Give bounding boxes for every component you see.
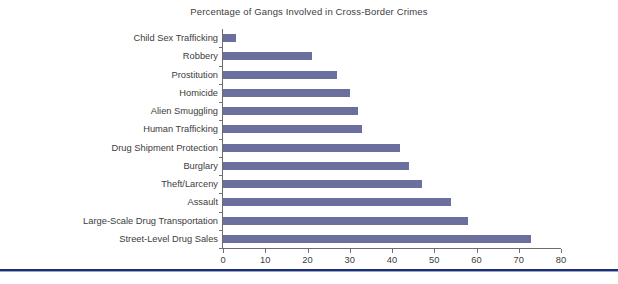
x-axis-tick: [477, 249, 478, 253]
bar: [223, 107, 358, 115]
x-axis-tick: [265, 249, 266, 253]
category-label: Burglary: [183, 161, 218, 171]
category-label: Drug Shipment Protection: [112, 143, 218, 153]
bar: [223, 162, 409, 170]
category-label: Human Trafficking: [143, 124, 218, 134]
bar: [223, 89, 350, 97]
y-axis-tick: [219, 157, 223, 158]
x-axis-tick: [308, 249, 309, 253]
bar: [223, 180, 422, 188]
x-axis-tick-label: 70: [504, 255, 534, 265]
y-axis-tick: [219, 212, 223, 213]
x-axis-tick: [519, 249, 520, 253]
y-axis-tick: [219, 102, 223, 103]
x-axis-tick-label: 80: [546, 255, 576, 265]
x-axis-tick-label: 20: [293, 255, 323, 265]
y-axis-tick: [219, 230, 223, 231]
category-label: Large-Scale Drug Transportation: [83, 216, 218, 226]
x-axis-tick-label: 40: [377, 255, 407, 265]
y-axis-tick: [219, 47, 223, 48]
x-axis-tick-label: 0: [208, 255, 238, 265]
y-axis-tick: [219, 139, 223, 140]
category-label: Theft/Larceny: [161, 179, 218, 189]
bar: [223, 125, 362, 133]
category-label: Homicide: [179, 88, 218, 98]
y-axis-tick: [219, 193, 223, 194]
bar: [223, 235, 531, 243]
category-label: Assault: [188, 197, 219, 207]
x-axis-tick-label: 10: [250, 255, 280, 265]
plot-area: [223, 29, 561, 248]
category-label: Street-Level Drug Sales: [119, 234, 218, 244]
x-axis-tick-label: 60: [462, 255, 492, 265]
x-axis-tick: [561, 249, 562, 253]
x-axis-tick-label: 50: [419, 255, 449, 265]
bar: [223, 144, 400, 152]
x-axis-tick: [434, 249, 435, 253]
bar: [223, 217, 468, 225]
bar: [223, 71, 337, 79]
y-axis-tick: [219, 175, 223, 176]
x-axis-tick-label: 30: [335, 255, 365, 265]
bar: [223, 34, 236, 42]
bar: [223, 198, 451, 206]
x-axis-tick: [223, 249, 224, 253]
bar-chart-figure: Percentage of Gangs Involved in Cross-Bo…: [0, 0, 618, 284]
chart-title: Percentage of Gangs Involved in Cross-Bo…: [0, 6, 618, 17]
category-label: Alien Smuggling: [151, 106, 218, 116]
category-label: Child Sex Trafficking: [133, 33, 218, 43]
category-label: Robbery: [183, 51, 218, 61]
y-axis-tick: [219, 84, 223, 85]
bottom-divider-rule-accent: [0, 271, 618, 272]
y-axis-tick: [219, 66, 223, 67]
y-axis-tick: [219, 120, 223, 121]
x-axis-tick: [392, 249, 393, 253]
x-axis-tick: [350, 249, 351, 253]
category-label: Prostitution: [171, 70, 218, 80]
bar: [223, 52, 312, 60]
